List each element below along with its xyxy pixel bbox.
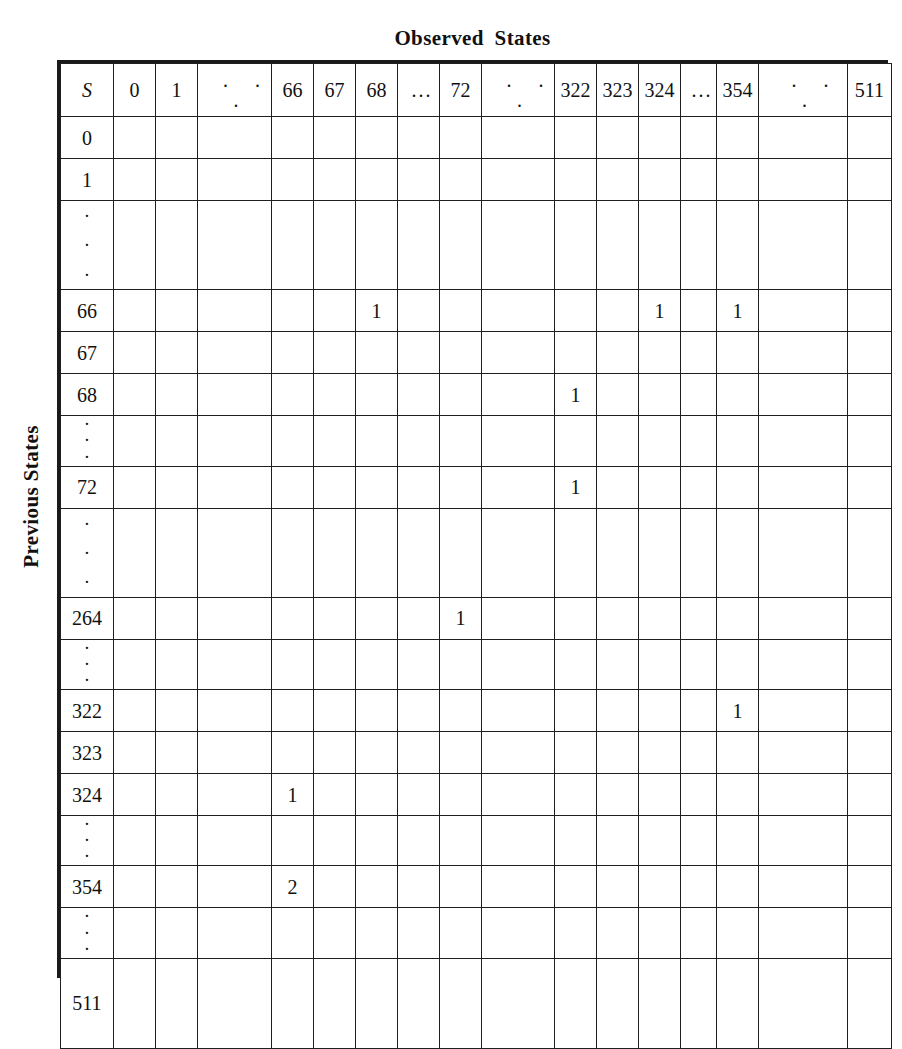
matrix-cell-empty — [314, 816, 356, 866]
matrix-cell-empty — [555, 416, 597, 466]
matrix-cell-empty — [440, 332, 482, 374]
matrix-cell-354-66: 2 — [272, 866, 314, 908]
matrix-cell-empty — [356, 508, 398, 597]
matrix-cell-empty — [848, 508, 892, 597]
matrix-row: 511 — [61, 958, 892, 1048]
matrix-row: ··· — [61, 639, 892, 689]
matrix-cell-empty — [198, 159, 272, 201]
matrix-cell-empty — [272, 597, 314, 639]
matrix-cell-empty — [597, 332, 639, 374]
matrix-cell-empty — [759, 690, 848, 732]
matrix-cell-empty — [114, 290, 156, 332]
matrix-cell-empty — [198, 639, 272, 689]
matrix-cell-empty — [639, 774, 681, 816]
matrix-cell-empty — [482, 639, 555, 689]
matrix-cell-empty — [114, 201, 156, 290]
matrix-cell-264-72: 1 — [440, 597, 482, 639]
matrix-cell-empty — [597, 816, 639, 866]
matrix-cell-empty — [198, 374, 272, 416]
matrix-cell-empty — [555, 866, 597, 908]
matrix-cell-empty — [717, 908, 759, 958]
matrix-cell-empty — [440, 508, 482, 597]
matrix-cell-empty — [356, 958, 398, 1048]
matrix-cell-empty — [272, 466, 314, 508]
matrix-cell-empty — [398, 201, 440, 290]
matrix-cell-empty — [314, 374, 356, 416]
matrix-cell-empty — [482, 866, 555, 908]
matrix-cell-empty — [482, 117, 555, 159]
matrix-cell-empty — [198, 597, 272, 639]
matrix-cell-empty — [398, 416, 440, 466]
matrix-cell-empty — [848, 690, 892, 732]
row-header-0: 0 — [61, 117, 114, 159]
row-header-264: 264 — [61, 597, 114, 639]
matrix-cell-empty — [314, 732, 356, 774]
matrix-cell-empty — [639, 201, 681, 290]
matrix-cell-empty — [198, 416, 272, 466]
matrix-container: S01. . .666768...72. . .322323324...354.… — [57, 60, 888, 978]
matrix-cell-empty — [440, 416, 482, 466]
matrix-row: 3542 — [61, 866, 892, 908]
column-header-67: 67 — [314, 64, 356, 117]
matrix-cell-empty — [356, 816, 398, 866]
matrix-cell-empty — [198, 816, 272, 866]
matrix-cell-empty — [555, 958, 597, 1048]
matrix-cell-empty — [198, 908, 272, 958]
row-header-511: 511 — [61, 958, 114, 1048]
matrix-cell-empty — [848, 466, 892, 508]
matrix-cell-value: 1 — [456, 608, 466, 628]
matrix-cell-66-324: 1 — [639, 290, 681, 332]
matrix-cell-empty — [597, 866, 639, 908]
column-header-322: 322 — [555, 64, 597, 117]
matrix-cell-empty — [272, 690, 314, 732]
matrix-cell-empty — [717, 508, 759, 597]
matrix-cell-empty — [156, 332, 198, 374]
matrix-cell-empty — [356, 117, 398, 159]
matrix-cell-empty — [156, 958, 198, 1048]
matrix-cell-empty — [717, 201, 759, 290]
matrix-cell-empty — [156, 816, 198, 866]
matrix-cell-empty — [759, 958, 848, 1048]
matrix-cell-empty — [848, 732, 892, 774]
matrix-cell-empty — [156, 466, 198, 508]
matrix-cell-empty — [482, 332, 555, 374]
matrix-cell-empty — [555, 774, 597, 816]
matrix-cell-empty — [717, 958, 759, 1048]
matrix-cell-empty — [759, 597, 848, 639]
matrix-cell-empty — [440, 958, 482, 1048]
matrix-cell-empty — [356, 639, 398, 689]
matrix-cell-empty — [482, 774, 555, 816]
matrix-cell-empty — [482, 732, 555, 774]
matrix-cell-66-68: 1 — [356, 290, 398, 332]
matrix-cell-empty — [597, 639, 639, 689]
matrix-cell-empty — [114, 374, 156, 416]
matrix-cell-empty — [440, 639, 482, 689]
matrix-cell-empty — [440, 290, 482, 332]
column-header-ellipsis: . . . — [482, 64, 555, 117]
column-header-354: 354 — [717, 64, 759, 117]
matrix-cell-empty — [356, 732, 398, 774]
matrix-cell-empty — [198, 508, 272, 597]
matrix-cell-empty — [848, 908, 892, 958]
column-header-323: 323 — [597, 64, 639, 117]
matrix-cell-empty — [759, 201, 848, 290]
matrix-cell-empty — [848, 416, 892, 466]
matrix-cell-empty — [314, 290, 356, 332]
matrix-row: ··· — [61, 908, 892, 958]
matrix-cell-empty — [759, 466, 848, 508]
matrix-cell-empty — [597, 416, 639, 466]
matrix-cell-empty — [356, 466, 398, 508]
matrix-cell-empty — [681, 159, 717, 201]
matrix-cell-empty — [597, 508, 639, 597]
matrix-cell-empty — [156, 416, 198, 466]
matrix-cell-empty — [597, 732, 639, 774]
matrix-cell-empty — [555, 908, 597, 958]
matrix-cell-empty — [681, 466, 717, 508]
matrix-cell-value: 1 — [571, 385, 581, 405]
matrix-cell-empty — [681, 508, 717, 597]
matrix-cell-empty — [848, 332, 892, 374]
matrix-cell-empty — [597, 374, 639, 416]
matrix-row: 681 — [61, 374, 892, 416]
matrix-cell-empty — [717, 732, 759, 774]
matrix-cell-empty — [114, 958, 156, 1048]
